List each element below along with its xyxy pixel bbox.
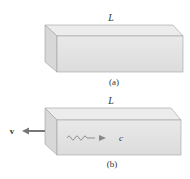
length-label-b: L bbox=[107, 95, 114, 106]
box-a-top bbox=[45, 25, 183, 36]
light-speed-label: c bbox=[119, 133, 123, 143]
box-a-front bbox=[57, 36, 183, 72]
caption-b: (b) bbox=[107, 159, 118, 169]
velocity-arrow-icon bbox=[22, 128, 45, 135]
length-label-a: L bbox=[107, 12, 114, 23]
box-b-top bbox=[45, 108, 181, 120]
box-b bbox=[45, 108, 181, 155]
figure: L (a) L (b) v c bbox=[0, 0, 190, 179]
box-a bbox=[45, 25, 183, 72]
caption-a: (a) bbox=[109, 77, 119, 87]
velocity-label: v bbox=[10, 126, 15, 136]
